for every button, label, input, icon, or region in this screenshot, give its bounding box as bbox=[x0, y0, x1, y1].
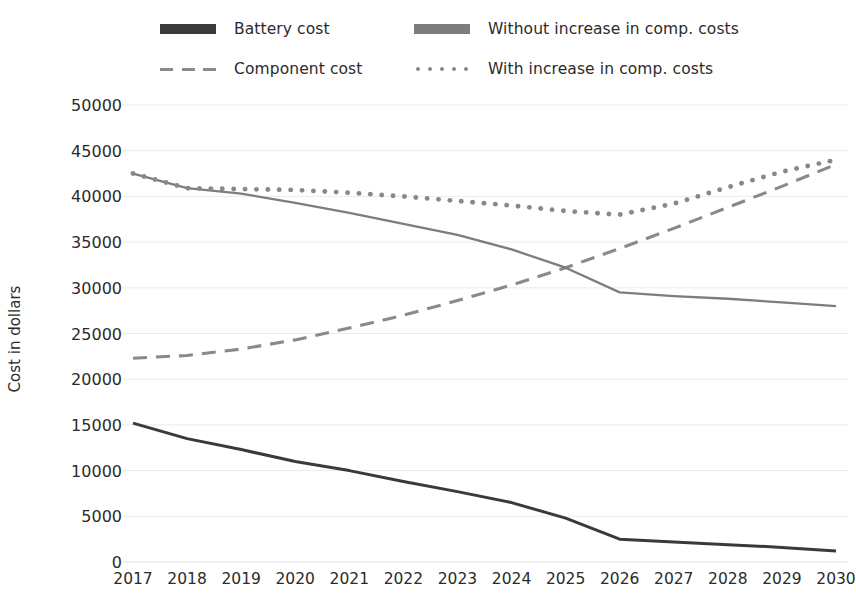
data-dot bbox=[345, 190, 350, 195]
data-dot bbox=[425, 196, 430, 201]
x-axis-tick-label: 2022 bbox=[384, 570, 423, 588]
data-dot bbox=[175, 183, 180, 188]
data-dot bbox=[322, 189, 327, 194]
data-dot bbox=[142, 174, 147, 179]
data-dot bbox=[772, 171, 777, 176]
data-dot bbox=[662, 203, 667, 208]
data-dot bbox=[254, 187, 259, 192]
data-dot bbox=[197, 186, 202, 191]
data-dot bbox=[739, 181, 744, 186]
x-axis-tick-label: 2019 bbox=[221, 570, 260, 588]
data-dot bbox=[761, 175, 766, 180]
data-dot bbox=[391, 193, 396, 198]
gridlines bbox=[121, 105, 848, 562]
x-axis-tick-label: 2025 bbox=[546, 570, 585, 588]
data-dot bbox=[618, 212, 623, 217]
data-dot bbox=[334, 190, 339, 195]
data-dot bbox=[153, 177, 158, 182]
data-dot bbox=[164, 180, 169, 185]
data-dot bbox=[584, 210, 589, 215]
x-axis-tick-label: 2021 bbox=[330, 570, 369, 588]
data-dot bbox=[368, 192, 373, 197]
data-dot bbox=[805, 164, 810, 169]
data-dot bbox=[504, 203, 509, 208]
data-dot bbox=[629, 210, 634, 215]
data-dot bbox=[208, 186, 213, 191]
data-dot bbox=[706, 191, 711, 196]
data-dot bbox=[220, 186, 225, 191]
x-axis-tick-label: 2018 bbox=[167, 570, 206, 588]
data-dot bbox=[595, 211, 600, 216]
data-dot bbox=[288, 187, 293, 192]
data-dot bbox=[447, 198, 452, 203]
data-dot bbox=[379, 192, 384, 197]
data-dot bbox=[550, 207, 555, 212]
x-axis-tick-label: 2026 bbox=[600, 570, 639, 588]
data-dot bbox=[413, 195, 418, 200]
x-axis-tick-label: 2023 bbox=[438, 570, 477, 588]
data-dot bbox=[794, 166, 799, 171]
data-dot bbox=[640, 208, 645, 213]
data-dot bbox=[516, 204, 521, 209]
data-dot bbox=[186, 186, 191, 191]
data-dot bbox=[561, 208, 566, 213]
data-dot bbox=[816, 161, 821, 166]
data-dot bbox=[482, 201, 487, 206]
data-dot bbox=[300, 188, 305, 193]
data-dot bbox=[685, 197, 690, 202]
data-dot bbox=[674, 201, 679, 206]
x-axis-tick-label: 2024 bbox=[492, 570, 531, 588]
series-line-battery-cost bbox=[133, 423, 836, 551]
data-dot bbox=[231, 187, 236, 192]
data-dot bbox=[728, 184, 733, 189]
x-axis-tick-label: 2017 bbox=[113, 570, 152, 588]
data-dot bbox=[311, 188, 316, 193]
data-dot bbox=[493, 202, 498, 207]
data-dot bbox=[527, 205, 532, 210]
x-axis-tick-labels: 2017201820192020202120222023202420252026… bbox=[0, 570, 850, 598]
data-dot bbox=[357, 191, 362, 196]
data-dot bbox=[470, 200, 475, 205]
series-lines bbox=[131, 159, 836, 551]
data-dot bbox=[695, 194, 700, 199]
data-dot bbox=[538, 206, 543, 211]
x-axis-tick-label: 2029 bbox=[762, 570, 801, 588]
data-dot bbox=[243, 187, 248, 192]
data-dot bbox=[717, 187, 722, 192]
series-line-without-increase-in-comp-costs bbox=[133, 174, 836, 307]
x-axis-tick-label: 2027 bbox=[654, 570, 693, 588]
data-dot bbox=[651, 205, 656, 210]
x-axis-tick-label: 2028 bbox=[708, 570, 747, 588]
x-axis-tick-label: 2020 bbox=[275, 570, 314, 588]
data-dot bbox=[277, 187, 282, 192]
data-dot bbox=[459, 199, 464, 204]
series-dotted-with-increase-in-comp-costs bbox=[131, 159, 833, 217]
data-dot bbox=[436, 197, 441, 202]
data-dot bbox=[572, 209, 577, 214]
data-dot bbox=[828, 159, 833, 164]
x-axis-tick-label: 2030 bbox=[816, 570, 855, 588]
data-dot bbox=[606, 211, 611, 216]
data-dot bbox=[783, 168, 788, 173]
data-dot bbox=[131, 171, 136, 176]
data-dot bbox=[265, 187, 270, 192]
data-dot bbox=[402, 194, 407, 199]
data-dot bbox=[750, 178, 755, 183]
